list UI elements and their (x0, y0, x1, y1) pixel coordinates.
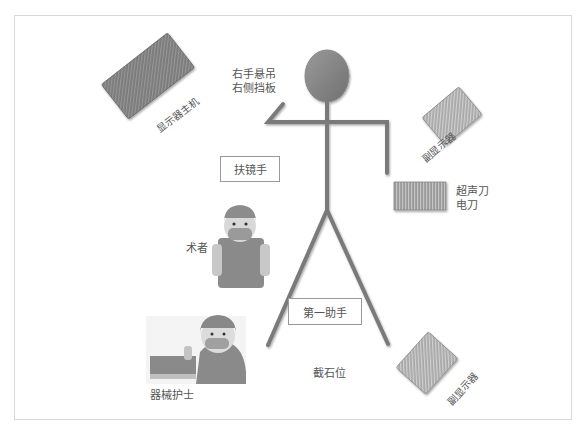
position-label: 截石位 (313, 367, 346, 381)
ultrasonic-knife-label-line1: 超声刀 (456, 185, 489, 199)
scrub-nurse-illustration (146, 315, 246, 384)
diagram-canvas (0, 0, 582, 434)
scrub-nurse-label: 器械护士 (150, 389, 194, 403)
scope-holder-box: 扶镜手 (220, 156, 280, 182)
arm-rest-label-line2: 右侧挡板 (232, 82, 276, 96)
ultrasonic-knife-icon (394, 182, 446, 210)
sub-display-bottom-icon (396, 332, 458, 394)
surgeon-label: 术者 (186, 242, 208, 256)
surgeon-illustration (212, 205, 270, 288)
arm-rest-label-line1: 右手悬吊 (232, 68, 276, 82)
first-assistant-box: 第一助手 (288, 298, 362, 325)
ultrasonic-knife-label-line2: 电刀 (456, 199, 478, 213)
